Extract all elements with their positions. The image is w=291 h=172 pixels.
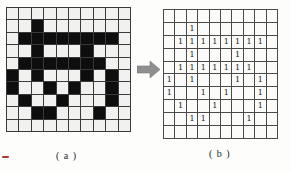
pixel-cell xyxy=(57,70,69,82)
value-cell: 1 xyxy=(187,113,198,126)
pixel-cell xyxy=(94,120,106,132)
pixel-cell xyxy=(119,120,131,132)
value-cell xyxy=(164,126,175,139)
pixel-cell xyxy=(119,107,131,119)
value-cell xyxy=(244,49,255,62)
value-cell xyxy=(210,113,221,126)
bitmap-grid-panel-a xyxy=(6,7,131,132)
pixel-cell xyxy=(32,107,44,119)
pixel-cell xyxy=(44,82,56,94)
value-cell: 1 xyxy=(232,49,243,62)
value-cell: 1 xyxy=(198,113,209,126)
pixel-cell xyxy=(19,107,31,119)
value-cell xyxy=(164,113,175,126)
value-cell xyxy=(164,49,175,62)
pixel-cell xyxy=(19,120,31,132)
value-cell: 1 xyxy=(255,74,266,87)
value-cell xyxy=(221,49,232,62)
value-cell: 1 xyxy=(210,62,221,75)
pixel-cell xyxy=(19,8,31,20)
value-cell: 1 xyxy=(244,62,255,75)
pixel-cell xyxy=(57,45,69,57)
value-cell xyxy=(198,74,209,87)
pixel-cell xyxy=(94,58,106,70)
pixel-cell xyxy=(7,45,19,57)
pixel-cell xyxy=(69,20,81,32)
pixel-cell xyxy=(69,58,81,70)
pixel-cell xyxy=(94,70,106,82)
value-cell xyxy=(210,87,221,100)
value-cell xyxy=(244,74,255,87)
value-cell xyxy=(255,49,266,62)
pixel-cell xyxy=(7,8,19,20)
pixel-cell xyxy=(7,58,19,70)
pixel-cell xyxy=(44,70,56,82)
value-cell xyxy=(232,10,243,23)
value-cell: 1 xyxy=(221,36,232,49)
value-cell xyxy=(267,126,278,139)
value-cell: 1 xyxy=(232,62,243,75)
value-cell xyxy=(210,10,221,23)
pixel-cell xyxy=(19,45,31,57)
value-cell: 1 xyxy=(244,36,255,49)
value-cell xyxy=(244,10,255,23)
pixel-cell xyxy=(119,82,131,94)
pixel-cell xyxy=(106,107,118,119)
value-cell xyxy=(232,87,243,100)
value-cell: 1 xyxy=(187,74,198,87)
value-cell xyxy=(198,49,209,62)
pixel-cell xyxy=(106,58,118,70)
value-cell xyxy=(221,10,232,23)
value-cell xyxy=(210,126,221,139)
value-cell xyxy=(267,113,278,126)
value-cell xyxy=(175,49,186,62)
pixel-cell xyxy=(57,107,69,119)
pixel-cell xyxy=(19,70,31,82)
pixel-cell xyxy=(19,95,31,107)
pixel-cell xyxy=(69,95,81,107)
caption-panel-b: ( b ) xyxy=(209,148,231,159)
pixel-cell xyxy=(81,33,93,45)
pixel-cell xyxy=(57,33,69,45)
value-cell xyxy=(221,74,232,87)
value-cell: 1 xyxy=(221,87,232,100)
pixel-cell xyxy=(32,58,44,70)
pixel-cell xyxy=(106,120,118,132)
value-cell xyxy=(232,23,243,36)
pixel-cell xyxy=(94,8,106,20)
pixel-cell xyxy=(69,45,81,57)
pixel-cell xyxy=(57,8,69,20)
value-cell: 1 xyxy=(210,36,221,49)
pixel-cell xyxy=(32,82,44,94)
value-cell: 1 xyxy=(198,62,209,75)
value-cell xyxy=(255,126,266,139)
value-cell xyxy=(267,49,278,62)
value-cell: 1 xyxy=(210,100,221,113)
pixel-cell xyxy=(119,45,131,57)
pixel-cell xyxy=(94,45,106,57)
value-cell xyxy=(210,23,221,36)
pixel-cell xyxy=(32,8,44,20)
pixel-cell xyxy=(94,20,106,32)
pixel-cell xyxy=(119,58,131,70)
value-cell: 1 xyxy=(187,36,198,49)
value-cell: 1 xyxy=(187,23,198,36)
value-cell xyxy=(187,87,198,100)
value-cell xyxy=(267,23,278,36)
value-cell: 1 xyxy=(255,87,266,100)
value-cell xyxy=(267,87,278,100)
value-cell: 1 xyxy=(232,36,243,49)
value-cell xyxy=(267,36,278,49)
value-cell xyxy=(198,23,209,36)
value-cell xyxy=(164,36,175,49)
value-cell: 1 xyxy=(198,87,209,100)
pixel-cell xyxy=(69,120,81,132)
pixel-cell xyxy=(94,33,106,45)
pixel-cell xyxy=(81,58,93,70)
pixel-cell xyxy=(119,8,131,20)
value-cell: 1 xyxy=(175,62,186,75)
pixel-cell xyxy=(57,95,69,107)
value-cell: 1 xyxy=(221,62,232,75)
value-cell xyxy=(164,100,175,113)
pixel-cell xyxy=(32,45,44,57)
